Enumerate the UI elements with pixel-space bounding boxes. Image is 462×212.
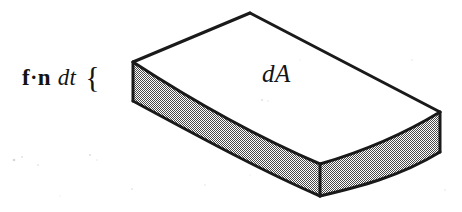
area-label: dA — [262, 61, 291, 86]
flux-vector-f: f — [22, 65, 30, 90]
slab-diagram — [0, 0, 462, 212]
flux-dot-operator: · — [30, 65, 37, 89]
flux-label: f·ndt{ — [22, 60, 100, 90]
flux-brace: { — [85, 60, 99, 93]
figure-canvas: f·ndt{ dA — [0, 0, 462, 212]
flux-differential-dt: dt — [58, 65, 77, 90]
flux-vector-n: n — [38, 65, 51, 90]
